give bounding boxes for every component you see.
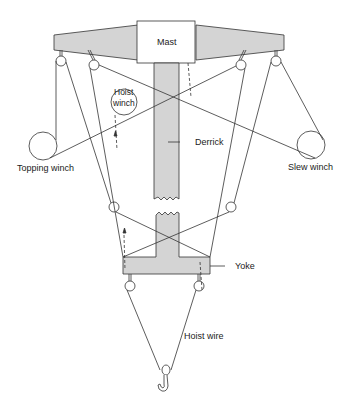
topping-winch-label: Topping winch <box>17 164 74 173</box>
yoke-label: Yoke <box>235 262 255 271</box>
pulley-yoke-right <box>194 281 204 291</box>
derrick-diagram <box>0 0 346 413</box>
left-crossarm <box>54 25 138 60</box>
pulley-mid-right <box>226 202 236 212</box>
hook <box>158 375 168 391</box>
right-crossarm <box>196 25 284 60</box>
hook-link <box>162 365 170 375</box>
pulley-top-right-outer <box>271 56 281 66</box>
pulley-top-right-inner <box>236 60 246 70</box>
mast-label: Mast <box>157 38 177 47</box>
derrick-upper <box>154 63 179 200</box>
slew-winch-label: Slew winch <box>288 163 333 172</box>
hoist-winch-label-line1: Hoist <box>114 88 133 97</box>
pulley-top-left-outer <box>56 56 66 66</box>
pulley-top-left-inner <box>89 60 99 70</box>
topping-winch-drum <box>29 132 57 160</box>
pulley-yoke-left <box>125 281 135 291</box>
hoist-wire-label: Hoist wire <box>184 332 224 341</box>
derrick-label: Derrick <box>195 138 224 147</box>
hoist-winch-label-line2: winch <box>113 99 135 108</box>
